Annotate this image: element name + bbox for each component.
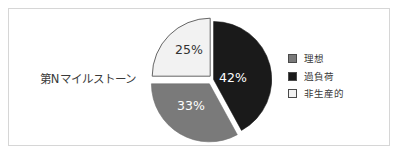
- legend-label-unproductive: 非生産的: [304, 89, 344, 99]
- legend-item-overload[interactable]: 過負荷: [288, 68, 384, 86]
- chart-legend: 理想 過負荷 非生産的: [288, 50, 384, 103]
- legend-swatch-ideal: [288, 54, 297, 63]
- pie-slice-label-overload: 42%: [219, 70, 247, 85]
- pie-slice-label-unproductive: 25%: [175, 42, 203, 57]
- pie-chart-figure: 第Nマイルストーン 42% 33% 25% 理想 過負荷 非生産的: [0, 0, 418, 159]
- legend-swatch-overload: [288, 72, 297, 81]
- legend-swatch-unproductive: [288, 89, 297, 98]
- pie-slice-label-ideal: 33%: [177, 98, 205, 113]
- legend-label-overload: 過負荷: [304, 72, 334, 82]
- pie-svg: 42% 33% 25%: [148, 14, 278, 146]
- chart-title-label: 第Nマイルストーン: [28, 70, 148, 86]
- pie-plot-area: 42% 33% 25%: [148, 14, 278, 146]
- legend-item-unproductive[interactable]: 非生産的: [288, 85, 384, 103]
- legend-item-ideal[interactable]: 理想: [288, 50, 384, 68]
- legend-label-ideal: 理想: [304, 54, 324, 64]
